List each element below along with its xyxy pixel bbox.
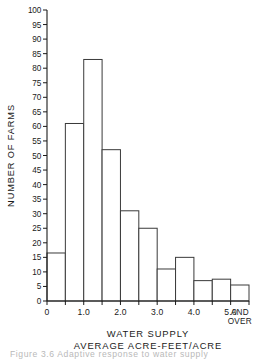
y-tick-label: 60 xyxy=(32,122,41,131)
histogram-bar xyxy=(65,123,83,301)
y-tick-label: 95 xyxy=(32,21,41,30)
x-tick-label: 0 xyxy=(45,307,50,317)
histogram-bar xyxy=(157,269,175,301)
y-tick-label: 30 xyxy=(32,210,41,219)
y-tick-label: 75 xyxy=(32,79,41,88)
y-tick-label: 50 xyxy=(32,152,41,161)
y-tick-label: 40 xyxy=(32,181,41,190)
y-tick-label: 65 xyxy=(32,108,41,117)
histogram-chart: 0510152025303540455055606570758085909510… xyxy=(0,0,260,359)
histogram-bar xyxy=(231,285,249,301)
y-tick-label: 90 xyxy=(32,35,41,44)
histogram-bar xyxy=(139,228,157,301)
y-tick-label: 35 xyxy=(32,195,41,204)
x-tick-label: 2.0 xyxy=(114,307,127,317)
y-tick-label: 70 xyxy=(32,93,41,102)
y-tick-label: 55 xyxy=(32,137,41,146)
x-axis-end-label-line1: AND xyxy=(231,308,249,317)
y-tick-label: 0 xyxy=(37,297,42,306)
x-axis-end-label-line2: OVER xyxy=(228,317,252,326)
y-tick-label: 20 xyxy=(32,239,41,248)
y-tick-label: 15 xyxy=(32,253,41,262)
figure-caption-cutoff: Figure 3.6 Adaptive response to water su… xyxy=(10,349,208,359)
figure-container: 0510152025303540455055606570758085909510… xyxy=(0,0,260,359)
histogram-bar xyxy=(194,281,212,301)
histogram-bar xyxy=(102,150,120,301)
y-axis-label: NUMBER OF FARMS xyxy=(6,104,16,207)
x-tick-label: 1.0 xyxy=(77,307,90,317)
histogram-bar xyxy=(212,279,230,301)
x-tick-label: 4.0 xyxy=(188,307,201,317)
y-tick-label: 10 xyxy=(32,268,41,277)
y-tick-label: 85 xyxy=(32,50,41,59)
y-tick-label: 80 xyxy=(32,64,41,73)
chart-svg: 0510152025303540455055606570758085909510… xyxy=(0,0,260,359)
histogram-bar xyxy=(120,211,138,301)
y-tick-label: 5 xyxy=(37,282,42,291)
x-tick-label: 3.0 xyxy=(151,307,164,317)
histogram-bar xyxy=(47,253,65,301)
x-axis-label-line1: WATER SUPPLY xyxy=(107,328,190,339)
y-tick-label: 100 xyxy=(28,6,42,15)
y-tick-label: 25 xyxy=(32,224,41,233)
histogram-bar xyxy=(176,257,194,301)
histogram-bar xyxy=(84,59,102,301)
y-tick-label: 45 xyxy=(32,166,41,175)
